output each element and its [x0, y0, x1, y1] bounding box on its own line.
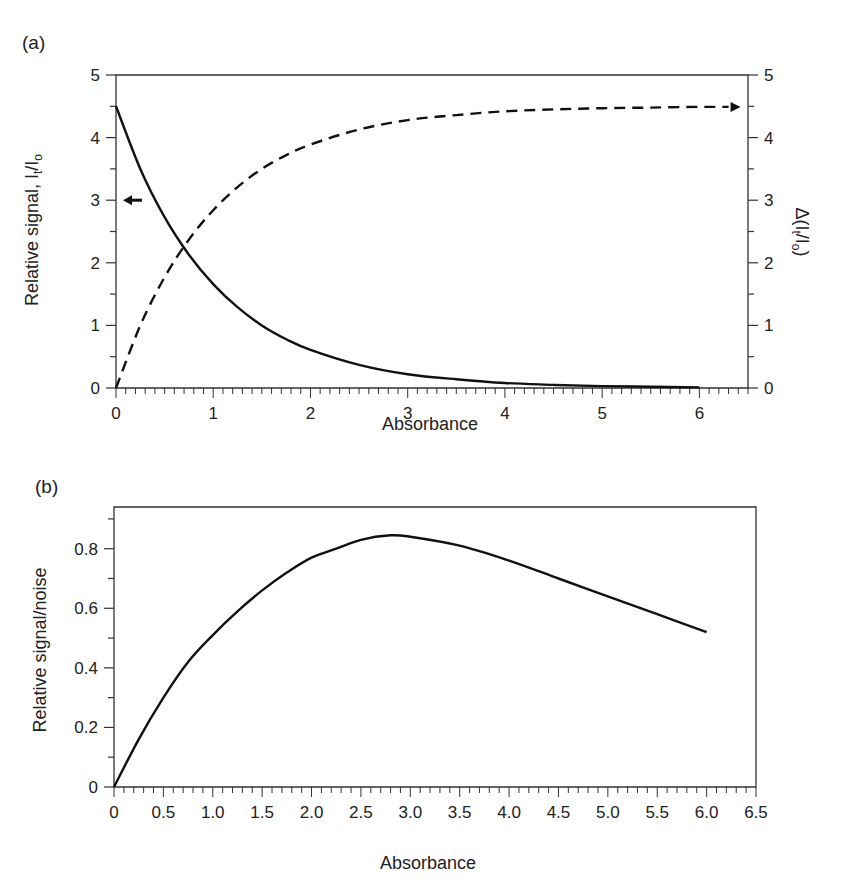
x-tick: 1.5 — [250, 803, 274, 822]
y-tick-left: 4 — [91, 129, 100, 148]
y-tick: 0.2 — [74, 718, 98, 737]
x-tick: 4 — [500, 404, 509, 423]
y-tick: 0.8 — [74, 540, 98, 559]
y-tick-right: 2 — [764, 254, 773, 273]
x-tick: 3.0 — [398, 803, 422, 822]
figure: (a) (b) Absorbance Absorbance 0123450123… — [0, 0, 844, 882]
chart-b-ylabel: Relative signal/noise — [30, 567, 50, 732]
panel-a-label: (a) — [22, 32, 45, 53]
x-tick: 4.5 — [547, 803, 571, 822]
x-tick: 6.0 — [695, 803, 719, 822]
x-tick: 0 — [109, 803, 118, 822]
x-tick: 6.5 — [744, 803, 768, 822]
y-tick-left: 5 — [91, 66, 100, 85]
x-tick: 2 — [306, 404, 315, 423]
x-tick: 3 — [403, 404, 412, 423]
y-tick: 0 — [89, 778, 98, 797]
x-tick: 1.0 — [201, 803, 225, 822]
x-tick: 4.0 — [497, 803, 521, 822]
y-tick-left: 3 — [91, 191, 100, 210]
chart-a-xlabel: Absorbance — [382, 414, 478, 434]
y-tick-left: 0 — [91, 379, 100, 398]
chart-b-xlabel: Absorbance — [380, 853, 476, 873]
x-tick: 0.5 — [152, 803, 176, 822]
x-tick: 0 — [111, 404, 120, 423]
x-tick: 2.5 — [349, 803, 373, 822]
y-tick: 0.6 — [74, 599, 98, 618]
signal-noise-curve — [114, 535, 707, 787]
y-tick: 0.4 — [74, 659, 98, 678]
y-tick-left: 1 — [91, 316, 100, 335]
y-tick-right: 3 — [764, 191, 773, 210]
left-arrowhead-icon — [123, 195, 132, 205]
y-tick-right: 1 — [764, 316, 773, 335]
x-tick: 2.0 — [300, 803, 324, 822]
y-tick-right: 5 — [764, 66, 773, 85]
x-tick: 5.0 — [596, 803, 620, 822]
delta-curve — [116, 107, 729, 388]
chart-b: 00.20.40.60.800.51.01.52.02.53.03.54.04.… — [74, 507, 767, 822]
chart-a-ylabel-left: Relative signal, It/Io — [22, 154, 45, 306]
signal-curve — [116, 106, 699, 387]
y-tick-right: 0 — [764, 379, 773, 398]
y-tick-right: 4 — [764, 129, 773, 148]
chart-a: 0123450123450123456 — [91, 66, 774, 423]
x-tick: 1 — [208, 404, 217, 423]
x-tick: 5 — [597, 404, 606, 423]
chart-a-ylabel-right: Δ(It/Io) — [789, 207, 812, 256]
x-tick: 6 — [695, 404, 704, 423]
y-tick-left: 2 — [91, 254, 100, 273]
x-tick: 5.5 — [645, 803, 669, 822]
x-tick: 3.5 — [448, 803, 472, 822]
panel-b-label: (b) — [35, 476, 58, 497]
right-arrowhead-icon — [731, 102, 741, 112]
